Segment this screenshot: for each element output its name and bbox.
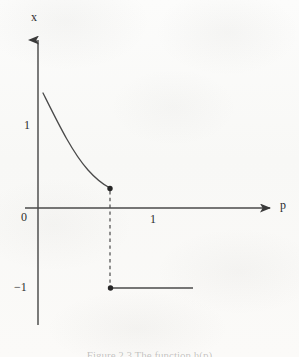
upper-branch-curve [43, 93, 110, 188]
x-axis-tick-label-one: 1 [150, 213, 156, 225]
figure-container: x p 0 1 1 −1 Figure 2.3 The function h(p… [0, 0, 299, 357]
vertical-axis-label: x [31, 11, 37, 23]
plot-canvas [0, 0, 299, 357]
y-axis-tick-label-one: 1 [24, 119, 30, 131]
lower-endpoint-dot [108, 285, 113, 290]
y-axis-tick-label-negative-one: −1 [14, 281, 27, 293]
figure-caption: Figure 2.3 The function h(p) [0, 349, 299, 357]
horizontal-axis-label: p [280, 199, 286, 211]
upper-endpoint-dot [107, 186, 112, 191]
origin-tick-label: 0 [21, 211, 27, 223]
